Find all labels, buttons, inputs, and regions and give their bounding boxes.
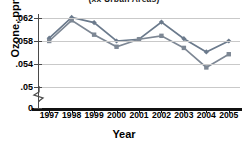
y-tick-label: 0	[28, 103, 33, 113]
x-tick-label: 1998	[62, 110, 81, 120]
chart-container: (xx Urban Areas) Ozone, ppm Year .062.05…	[0, 0, 248, 143]
y-tick-label: .062	[15, 13, 33, 23]
data-point-marker	[92, 32, 96, 36]
y-tick-label: .054	[15, 59, 33, 69]
x-tick-label: 1999	[85, 110, 104, 120]
x-tick-label: 2002	[152, 110, 171, 120]
x-tick-label: 1997	[40, 110, 59, 120]
gridline	[38, 87, 240, 88]
y-tick-label: .05	[20, 82, 33, 92]
plot-area	[38, 14, 240, 109]
axis-break-icon	[32, 86, 46, 102]
data-point-marker	[159, 34, 163, 38]
gridline	[38, 41, 240, 42]
x-axis-label: Year	[0, 128, 248, 140]
y-tick-mark	[34, 108, 42, 109]
y-tick-mark	[34, 41, 42, 42]
series-layer	[38, 14, 240, 109]
data-point-marker	[114, 45, 118, 49]
x-tick-label: 2005	[219, 110, 238, 120]
data-point-marker	[227, 52, 231, 56]
gridline	[38, 64, 240, 65]
x-tick-label: 2004	[197, 110, 216, 120]
series-line	[49, 20, 229, 67]
data-point-marker	[182, 46, 186, 50]
x-tick-label: 2001	[129, 110, 148, 120]
y-tick-label: .058	[15, 36, 33, 46]
data-point-marker	[204, 65, 208, 69]
y-tick-mark	[34, 64, 42, 65]
x-tick-label: 2000	[107, 110, 126, 120]
y-tick-mark	[34, 18, 42, 19]
chart-title: (xx Urban Areas)	[0, 0, 248, 4]
gridline	[38, 18, 240, 19]
x-tick-label: 2003	[174, 110, 193, 120]
